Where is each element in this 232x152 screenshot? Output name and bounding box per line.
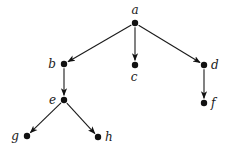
edge-e-g-arrow — [30, 103, 61, 133]
node-label-e: e — [49, 93, 56, 107]
edge-a-d-arrow — [139, 25, 200, 62]
node-b — [61, 61, 67, 67]
labels-group: abcdefgh — [11, 3, 219, 144]
edge-a-b-arrow — [68, 25, 131, 62]
edges-group — [30, 25, 204, 133]
node-f — [201, 100, 207, 106]
node-label-d: d — [211, 58, 219, 72]
node-label-b: b — [48, 57, 56, 71]
node-label-a: a — [131, 3, 138, 17]
node-d — [201, 62, 207, 68]
node-label-f: f — [210, 96, 218, 110]
edge-e-h-arrow — [67, 103, 95, 133]
nodes-group — [24, 20, 207, 140]
node-label-g: g — [11, 129, 19, 143]
node-a — [132, 20, 138, 26]
node-c — [132, 62, 138, 68]
node-label-c: c — [131, 70, 138, 84]
node-e — [61, 97, 67, 103]
node-label-h: h — [105, 130, 113, 144]
node-g — [24, 133, 30, 139]
tree-diagram: abcdefgh — [0, 0, 232, 152]
node-h — [95, 134, 101, 140]
